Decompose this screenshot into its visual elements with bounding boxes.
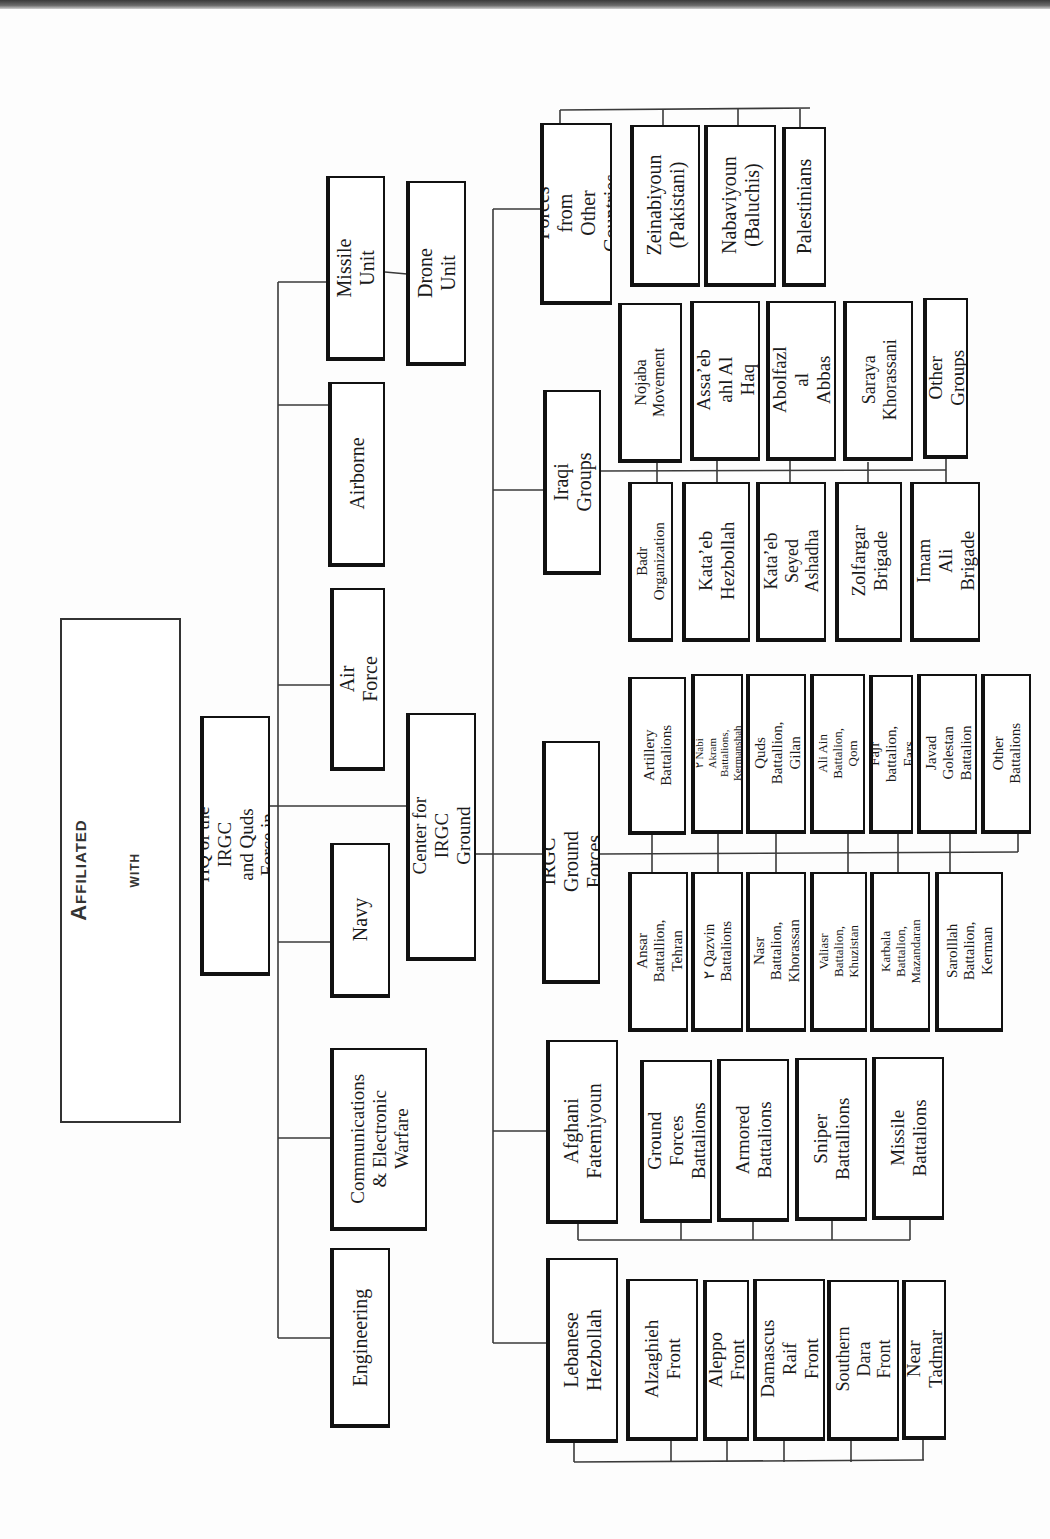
node-label: Kata’eb Hezbollah xyxy=(695,522,739,600)
nojaba-movement-node[interactable]: Nojaba Movement xyxy=(618,303,682,463)
node-label: Iraqi Groups xyxy=(550,452,596,511)
node-label: Karbala Battalion, Mazandaran xyxy=(879,919,924,983)
node-label: Fajr battalion, Fars xyxy=(869,725,913,781)
damascus-raif-front-node[interactable]: Damascus Raif Front xyxy=(753,1279,825,1441)
valiasr-battalion-node[interactable]: Valiasr Battalion, Khuzistan xyxy=(810,872,867,1032)
armored-battalions-node[interactable]: Armored Battalions xyxy=(717,1059,789,1222)
node-label: Abolfazl al Abbas xyxy=(769,347,835,413)
node-label: Command HQ of the IRGC and Quds Force in… xyxy=(200,805,270,884)
node-label: Command Center for IRGC Ground Forces xyxy=(406,796,476,875)
node-label: Ground Forces Battalions xyxy=(644,1102,710,1179)
node-label: Badr Organization xyxy=(634,522,669,600)
command-hq-node[interactable]: Command HQ of the IRGC and Quds Force in… xyxy=(200,716,270,976)
palestinians-node[interactable]: Palestinians xyxy=(782,127,826,287)
forces-other-countries-node[interactable]: Forces from Other Countries xyxy=(540,123,612,305)
javad-golestan-battalion-node[interactable]: Javad Golestan Battalion xyxy=(917,674,977,834)
node-label: Assa’eb ahl Al Haq xyxy=(693,348,759,412)
irgc-ground-forces-node[interactable]: IRGC Ground Forces xyxy=(542,741,600,984)
karbala-battalion-node[interactable]: Karbala Battalion, Mazandaran xyxy=(870,872,930,1032)
lebanese-hezbollah-node[interactable]: Lebanese Hezbollah xyxy=(546,1258,618,1443)
node-label: Air Force xyxy=(336,654,382,703)
node-label: Saraya Khorassani xyxy=(858,340,899,421)
node-label: ٢ Qazvin Battalions xyxy=(701,921,736,982)
node-label: Kata’eb Seyed Ashadha xyxy=(761,529,823,593)
node-label: Sniper Battallions xyxy=(810,1097,854,1179)
kataeb-seyed-ashadha-node[interactable]: Kata’eb Seyed Ashadha xyxy=(756,482,826,642)
missile-battalions-node[interactable]: Missile Battalions xyxy=(872,1057,944,1220)
other-groups-node[interactable]: Other Groups xyxy=(923,298,968,459)
air-force-node[interactable]: Air Force xyxy=(330,588,385,771)
node-label: Forces from Other Countries xyxy=(540,174,612,252)
title-line-1: Military Forces Affiliated xyxy=(60,812,94,929)
node-label: Aleppo Front xyxy=(705,1332,749,1388)
node-label: Ali Ain Battalion, Qom xyxy=(816,728,861,779)
node-label: Artillery Battalions xyxy=(641,725,676,786)
assaeb-ahl-al-haq-node[interactable]: Assa’eb ahl Al Haq xyxy=(690,301,760,461)
aleppo-front-node[interactable]: Aleppo Front xyxy=(703,1280,749,1441)
node-label: Zolfargar Brigade xyxy=(848,525,892,596)
engineering-node[interactable]: Engineering xyxy=(330,1248,390,1428)
communications-ew-node[interactable]: Communications & Electronic Warfare xyxy=(330,1048,427,1231)
nabi-akram-battalions-node[interactable]: ٢ Nabi Akram Battalions, Kermanshah xyxy=(691,674,743,834)
node-label: Imam Ali Brigade xyxy=(913,529,979,593)
chart-title-box: Military Forces Affiliated with The IRGC… xyxy=(60,618,181,1123)
nabaviyoun-node[interactable]: Nabaviyoun (Baluchis) xyxy=(704,125,776,287)
afghani-fatemiyoun-node[interactable]: Afghani Fatemiyoun xyxy=(546,1040,618,1224)
title-line-2: with xyxy=(124,812,147,929)
node-label: ٢ Nabi Akram Battalions, Kermanshah xyxy=(693,725,743,781)
ali-ain-battalion-node[interactable]: Ali Ain Battalion, Qom xyxy=(810,674,865,834)
node-label: Valiasr Battalion, Khuzistan xyxy=(817,925,862,978)
node-label: Navy xyxy=(349,898,372,941)
zeinabiyoun-node[interactable]: Zeinabiyoun (Pakistani) xyxy=(630,125,700,287)
sniper-battalions-node[interactable]: Sniper Battallions xyxy=(795,1058,867,1221)
airborne-node[interactable]: Airborne xyxy=(328,382,385,567)
node-label: Drone Unit xyxy=(414,246,460,300)
node-label: IRGC Ground Forces xyxy=(542,831,600,892)
node-label: Nasr Battalion, Khorassan xyxy=(751,919,803,982)
quds-battalion-gilan-node[interactable]: Quds Battallion, Gilan xyxy=(746,674,806,834)
node-label: Airborne xyxy=(346,437,369,509)
node-label: Communications & Electronic Warfare xyxy=(347,1074,413,1204)
zolfargar-brigade-node[interactable]: Zolfargar Brigade xyxy=(835,482,902,642)
node-label: Damascus Raif Front xyxy=(757,1320,823,1398)
node-label: Ansar Battallion, Tehran xyxy=(633,920,685,983)
node-label: Southern Dara Front xyxy=(833,1327,895,1393)
other-battalions-node[interactable]: Other Battalions xyxy=(981,674,1031,834)
ground-forces-battalions-node[interactable]: Ground Forces Battalions xyxy=(640,1060,712,1223)
kataeb-hezbollah-node[interactable]: Kata’eb Hezbollah xyxy=(682,482,750,642)
node-label: Afghani Fatemiyoun xyxy=(560,1083,606,1179)
alzaghieh-front-node[interactable]: Alzaghieh Front xyxy=(626,1279,698,1441)
nasr-battalion-node[interactable]: Nasr Battalion, Khorassan xyxy=(746,872,806,1032)
qazvin-battalions-node[interactable]: ٢ Qazvin Battalions xyxy=(691,872,743,1032)
abolfazl-al-abbas-node[interactable]: Abolfazl al Abbas xyxy=(766,301,836,461)
ground-command-center-node[interactable]: Command Center for IRGC Ground Forces xyxy=(406,713,476,961)
sarollah-battalion-node[interactable]: Sarolllah Battalion, Kerman xyxy=(935,872,1003,1032)
node-label: Sarolllah Battalion, Kerman xyxy=(944,920,996,982)
artillery-battalions-node[interactable]: Artillery Battalions xyxy=(628,677,686,835)
node-label: Alzaghieh Front xyxy=(641,1320,685,1398)
missile-unit-node[interactable]: Missile Unit xyxy=(326,176,385,361)
badr-organization-node[interactable]: Badr Organization xyxy=(628,482,673,642)
near-tadmar-node[interactable]: Near Tadmar xyxy=(902,1280,946,1440)
node-label: Quds Battallion, Gilan xyxy=(751,722,803,785)
node-label: Nabaviyoun (Baluchis) xyxy=(718,156,764,254)
ansar-battalion-node[interactable]: Ansar Battallion, Tehran xyxy=(628,872,688,1032)
node-label: Armored Battalions xyxy=(732,1101,776,1178)
node-label: Zeinabiyoun (Pakistani) xyxy=(643,154,689,255)
fajr-battalion-node[interactable]: Fajr battalion, Fars xyxy=(869,675,913,834)
saraya-khorassani-node[interactable]: Saraya Khorassani xyxy=(843,301,913,461)
node-label: Lebanese Hezbollah xyxy=(560,1308,606,1390)
node-label: Missile Battalions xyxy=(887,1099,931,1176)
imam-ali-brigade-node[interactable]: Imam Ali Brigade xyxy=(910,482,980,642)
node-label: Near Tadmar xyxy=(903,1330,946,1388)
southern-dara-front-node[interactable]: Southern Dara Front xyxy=(827,1280,899,1441)
title-line-3: The IRGC in Syria xyxy=(177,812,182,929)
node-label: Javad Golestan Battalion xyxy=(922,726,974,781)
chart-title: Military Forces Affiliated with The IRGC… xyxy=(60,812,181,929)
iraqi-groups-node[interactable]: Iraqi Groups xyxy=(543,390,601,575)
navy-node[interactable]: Navy xyxy=(330,843,390,998)
drone-unit-node[interactable]: Drone Unit xyxy=(406,181,466,366)
node-label: Nojaba Movement xyxy=(633,347,670,416)
node-label: Palestinians xyxy=(794,158,817,254)
node-label: Other Groups xyxy=(925,350,968,406)
